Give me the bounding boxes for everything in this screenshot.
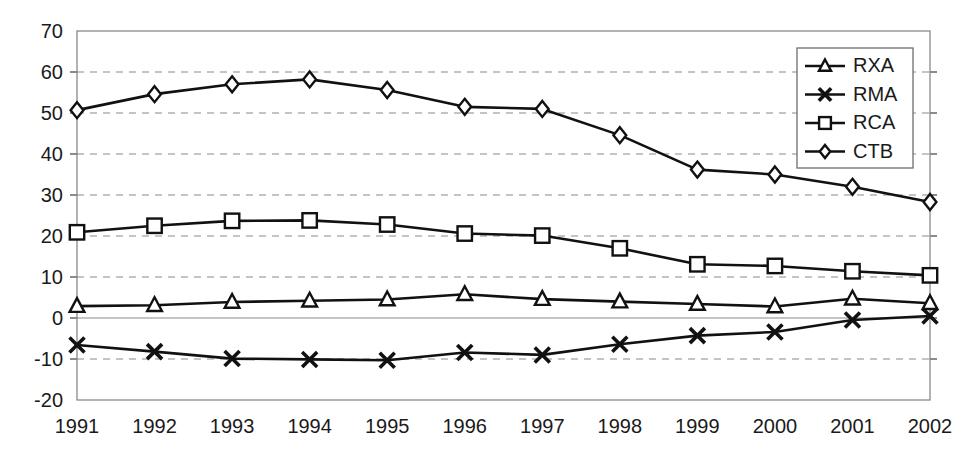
data-point-marker-square	[147, 219, 161, 233]
y-axis-tick-label: -20	[34, 389, 63, 411]
x-axis-tick-label: 1998	[598, 415, 643, 437]
data-point-marker-square	[923, 268, 937, 282]
data-point-marker-square	[613, 241, 627, 255]
series-rxa	[70, 286, 938, 312]
y-axis-tick-label: 40	[41, 143, 63, 165]
y-axis-tick-label: 70	[41, 20, 63, 42]
x-axis-tick-label: 1994	[287, 415, 332, 437]
x-axis-tick-labels: 1991199219931994199519961997199819992000…	[55, 415, 953, 437]
x-axis-tick-label: 1995	[365, 415, 410, 437]
data-point-marker-square	[845, 264, 859, 278]
x-axis-tick-label: 1992	[132, 415, 177, 437]
data-point-marker-square	[70, 225, 84, 239]
series-rca	[70, 213, 937, 282]
y-axis-tick-label: 0	[52, 307, 63, 329]
data-point-marker-diamond	[303, 71, 316, 87]
data-point-marker-diamond	[924, 194, 937, 210]
legend-item-label-rma[interactable]: RMA	[853, 83, 898, 105]
data-point-marker-diamond	[381, 82, 394, 98]
data-point-marker-square	[302, 213, 316, 227]
legend-item-label-rxa[interactable]: RXA	[853, 54, 895, 76]
series-line-rxa	[77, 294, 930, 306]
chart-legend: RXARMARCACTB	[797, 48, 913, 168]
data-point-marker-square	[819, 117, 831, 129]
x-axis-tick-label: 1999	[675, 415, 720, 437]
x-axis-tick-label: 2002	[908, 415, 953, 437]
data-point-marker-square	[458, 226, 472, 240]
y-axis-tick-label: 30	[41, 184, 63, 206]
data-point-marker-square	[380, 217, 394, 231]
x-axis-tick-label: 1996	[442, 415, 487, 437]
x-axis-tick-label: 1991	[55, 415, 100, 437]
data-point-marker-diamond	[613, 127, 626, 143]
y-axis-tick-label: 20	[41, 225, 63, 247]
x-axis-tick-label: 2001	[830, 415, 875, 437]
data-point-marker-triangle	[845, 291, 860, 305]
y-axis-tick-label: 50	[41, 102, 63, 124]
data-point-marker-triangle	[457, 286, 472, 300]
chart-canvas: 706050403020100-10-20 199119921993199419…	[0, 0, 977, 463]
data-point-marker-diamond	[769, 167, 782, 183]
data-point-marker-diamond	[226, 76, 239, 92]
series-line-rca	[77, 220, 930, 275]
y-axis-tick-labels: 706050403020100-10-20	[34, 20, 63, 411]
y-axis-tick-label: 10	[41, 266, 63, 288]
legend-item-label-ctb[interactable]: CTB	[853, 140, 893, 162]
data-point-marker-square	[690, 257, 704, 271]
legend-item-label-rca[interactable]: RCA	[853, 111, 896, 133]
data-point-marker-square	[768, 259, 782, 273]
x-axis-tick-label: 1997	[520, 415, 565, 437]
data-point-marker-square	[225, 214, 239, 228]
data-point-marker-diamond	[846, 179, 859, 195]
y-axis-tick-label: -10	[34, 348, 63, 370]
y-axis-tick-label: 60	[41, 61, 63, 83]
data-point-marker-diamond	[148, 86, 161, 102]
line-chart: 706050403020100-10-20 199119921993199419…	[0, 0, 977, 463]
data-point-marker-diamond	[691, 162, 704, 178]
x-axis-tick-label: 1993	[210, 415, 255, 437]
x-axis-tick-label: 2000	[753, 415, 798, 437]
data-point-marker-diamond	[71, 102, 84, 118]
series-line-rma	[77, 316, 930, 360]
data-point-marker-diamond	[536, 101, 549, 117]
data-point-marker-square	[535, 228, 549, 242]
